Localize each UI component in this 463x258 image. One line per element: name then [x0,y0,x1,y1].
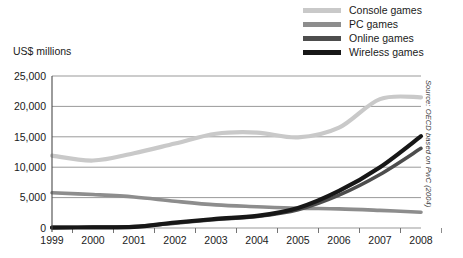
x-tick-label: 2004 [245,234,269,246]
y-tick-label: 25,000 [14,70,46,82]
x-tick-label: 2008 [409,234,433,246]
y-tick-labels-group: 25,00020,00015,00010,0005,0000 [14,70,46,234]
x-tick-label: 2006 [327,234,351,246]
x-tick-label: 2003 [204,234,228,246]
y-tick-label: 10,000 [14,161,46,173]
chart-plot-area: 25,00020,00015,00010,0005,0000 199920002… [0,0,463,258]
x-tick-label: 2005 [286,234,310,246]
y-tick-label: 20,000 [14,100,46,112]
chart-figure: Console games PC games Online games Wire… [0,0,463,258]
x-tick-labels-group: 1999200020012002200320042005200620072008 [40,234,433,246]
y-tick-label: 0 [40,222,46,234]
y-tick-label: 5,000 [20,191,46,203]
y-tick-label: 15,000 [14,131,46,143]
source-note: Source: OECD based on PwC (2004) [424,80,433,230]
x-tick-label: 2007 [368,234,392,246]
x-tick-label: 1999 [40,234,64,246]
series-line-pc-games [52,193,421,212]
x-tick-label: 2000 [81,234,105,246]
series-line-console-games [52,96,421,160]
x-tick-label: 2001 [122,234,146,246]
x-tick-label: 2002 [163,234,187,246]
data-series-group [52,96,421,227]
